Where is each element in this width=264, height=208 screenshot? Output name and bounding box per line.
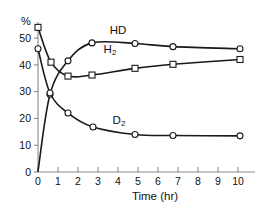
series-line-h2 <box>38 27 240 77</box>
x-tick-label: 8 <box>195 175 201 187</box>
chart-svg: 01020304050 % 012345678910 Time (hr) HDH… <box>0 0 264 208</box>
data-point-d2 <box>132 132 138 138</box>
y-tick-label: 40 <box>19 59 31 71</box>
series-label-subscript: 2 <box>121 119 126 128</box>
series-annotations: HDH2D2 <box>104 24 127 128</box>
x-tick-label: 6 <box>155 175 161 187</box>
data-point-d2 <box>90 124 96 130</box>
data-point-d2 <box>35 46 41 52</box>
y-tick-label: 10 <box>19 139 31 151</box>
x-tick-label: 7 <box>175 175 181 187</box>
y-axis-tick-labels: 01020304050 <box>19 32 31 178</box>
y-axis: 01020304050 % <box>19 15 38 178</box>
x-tick-label: 9 <box>215 175 221 187</box>
x-tick-label: 3 <box>95 175 101 187</box>
x-tick-label: 2 <box>75 175 81 187</box>
data-point-d2 <box>237 133 243 139</box>
y-axis-unit-label: % <box>21 15 31 27</box>
chart-figure: 01020304050 % 012345678910 Time (hr) HDH… <box>0 0 264 208</box>
series-label-h2: H2 <box>104 43 117 58</box>
x-axis-tick-labels: 012345678910 <box>35 175 244 187</box>
series-markers <box>35 24 243 138</box>
data-point-h2 <box>170 61 176 67</box>
series-label-hd: HD <box>110 24 127 36</box>
x-tick-label: 10 <box>232 175 244 187</box>
data-point-hd <box>237 46 243 52</box>
data-point-h2 <box>35 24 41 30</box>
x-axis: 012345678910 Time (hr) <box>35 167 255 202</box>
data-point-d2 <box>170 133 176 139</box>
data-point-hd <box>132 40 138 46</box>
x-tick-label: 0 <box>35 175 41 187</box>
data-point-h2 <box>89 72 95 78</box>
data-point-h2 <box>48 59 54 65</box>
data-point-hd <box>170 44 176 50</box>
series-label-subscript: 2 <box>112 48 117 57</box>
data-point-hd <box>89 40 95 46</box>
x-tick-label: 4 <box>115 175 121 187</box>
data-point-h2 <box>132 65 138 71</box>
y-axis-ticks <box>34 38 38 172</box>
series-label-d2: D2 <box>113 114 126 128</box>
x-tick-label: 5 <box>135 175 141 187</box>
x-axis-ticks <box>38 167 238 172</box>
y-tick-label: 30 <box>19 85 31 97</box>
data-point-h2 <box>237 57 243 63</box>
series-curves <box>38 27 240 171</box>
data-point-d2 <box>65 110 71 116</box>
data-point-d2 <box>47 90 53 96</box>
data-point-hd <box>65 58 71 64</box>
x-axis-title: Time (hr) <box>132 190 178 202</box>
y-tick-label: 0 <box>25 166 31 178</box>
data-point-h2 <box>65 73 71 79</box>
y-tick-label: 20 <box>19 112 31 124</box>
y-tick-label: 50 <box>19 32 31 44</box>
x-tick-label: 1 <box>55 175 61 187</box>
